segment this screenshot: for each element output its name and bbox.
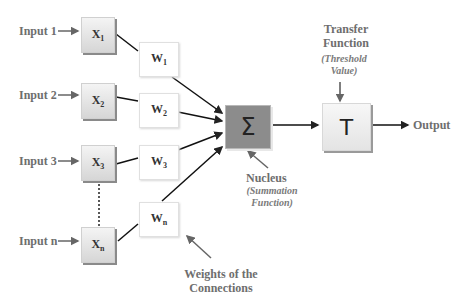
x3-node: X3 — [81, 145, 115, 181]
xn-node: Xn — [81, 227, 115, 263]
output-label: Output — [413, 118, 450, 132]
nucleus-subtitle: (Summation Function) — [236, 185, 308, 209]
w3-node: W3 — [139, 145, 179, 180]
x2-node: X2 — [81, 83, 115, 119]
transfer-node: T — [322, 103, 371, 151]
w2-node: W2 — [139, 93, 179, 128]
input-2-label: Input 2 — [19, 88, 57, 102]
x1-node: X1 — [81, 17, 115, 53]
input-1-label: Input 1 — [19, 24, 57, 38]
transfer-function-label: Transfer Function — [318, 22, 374, 50]
neuron-diagram: Input 1 Input 2 Input 3 Input n X1 X2 X3… — [0, 0, 466, 300]
w1-node: W1 — [139, 42, 179, 77]
input-n-label: Input n — [19, 234, 57, 248]
weights-caption: Weights of the Connections — [177, 267, 265, 295]
connection-lines — [0, 0, 466, 300]
nucleus-label: Nucleus — [246, 171, 287, 185]
summation-node: Σ — [225, 105, 271, 149]
input-3-label: Input 3 — [19, 154, 57, 168]
threshold-subtitle: (Threshold Value) — [313, 53, 375, 77]
wn-node: Wn — [139, 202, 179, 237]
